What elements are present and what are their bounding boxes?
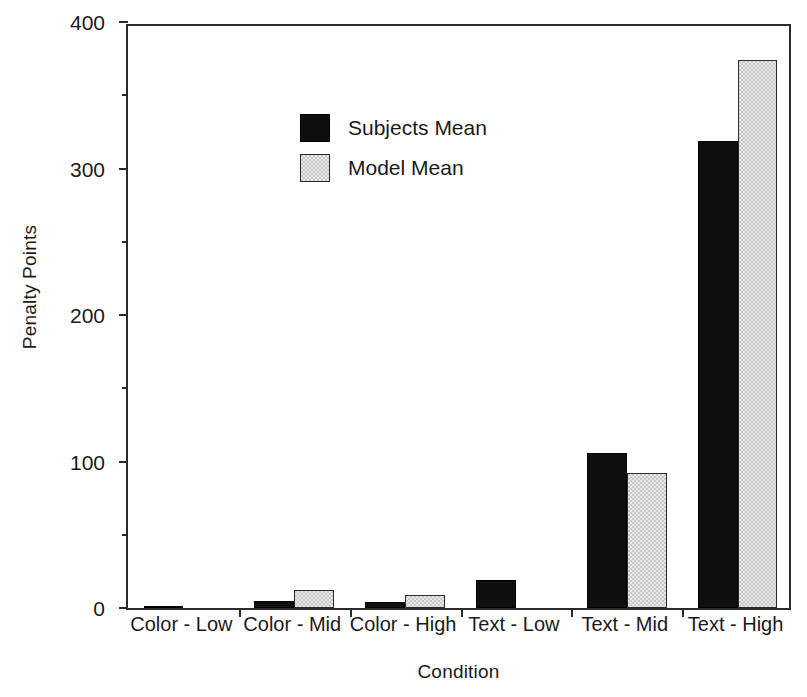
- x-axis-tick-label: Color - High: [350, 613, 457, 636]
- chart-legend: Subjects Mean Model Mean: [300, 108, 487, 188]
- bar-chart-figure: Penalty Points 0100200300400 Color - Low…: [0, 0, 807, 697]
- x-axis-tick-label: Text - High: [688, 613, 784, 636]
- y-axis-tick-label: 200: [70, 304, 105, 328]
- bar-model-mean: [627, 473, 667, 608]
- x-axis-tick-label: Text - Low: [468, 613, 559, 636]
- y-axis-tick-major: 200: [119, 314, 128, 316]
- y-axis-tick-minor: [122, 387, 128, 389]
- x-axis-title: Condition: [126, 661, 791, 683]
- x-axis-tick: [571, 608, 573, 617]
- legend-swatch-subjects-mean: [300, 114, 330, 142]
- bar-subjects-mean: [144, 606, 184, 608]
- y-axis-tick-major: 300: [119, 168, 128, 170]
- bar-model-mean: [294, 590, 334, 608]
- x-axis-tick: [461, 608, 463, 617]
- bar-subjects-mean: [476, 580, 516, 608]
- bar-subjects-mean: [587, 453, 627, 608]
- y-axis-tick-major: 400: [119, 21, 128, 23]
- legend-label-subjects-mean: Subjects Mean: [348, 116, 487, 140]
- y-axis-tick-minor: [122, 94, 128, 96]
- legend-label-model-mean: Model Mean: [348, 156, 464, 180]
- x-axis-tick-label: Color - Mid: [243, 613, 341, 636]
- y-axis-tick-minor: [122, 534, 128, 536]
- legend-swatch-model-mean: [300, 154, 330, 182]
- x-axis-tick: [239, 608, 241, 617]
- bar-model-mean: [738, 60, 778, 608]
- bar-model-mean: [405, 595, 445, 608]
- bar-subjects-mean: [365, 602, 405, 608]
- y-axis-title: Penalty Points: [19, 207, 41, 367]
- x-axis-tick-label: Text - Mid: [581, 613, 668, 636]
- legend-item-subjects-mean: Subjects Mean: [300, 108, 487, 148]
- y-axis-tick-label: 300: [70, 157, 105, 181]
- y-axis-tick-label: 0: [93, 597, 105, 621]
- x-axis-tick: [682, 608, 684, 617]
- y-axis-tick-major: 100: [119, 461, 128, 463]
- y-axis-tick-label: 400: [70, 11, 105, 35]
- y-axis-tick-minor: [122, 241, 128, 243]
- legend-item-model-mean: Model Mean: [300, 148, 487, 188]
- y-axis-tick-major: 0: [119, 607, 128, 609]
- bar-subjects-mean: [254, 601, 294, 608]
- x-axis-tick-label: Color - Low: [130, 613, 232, 636]
- y-axis-tick-label: 100: [70, 450, 105, 474]
- bar-subjects-mean: [698, 141, 738, 608]
